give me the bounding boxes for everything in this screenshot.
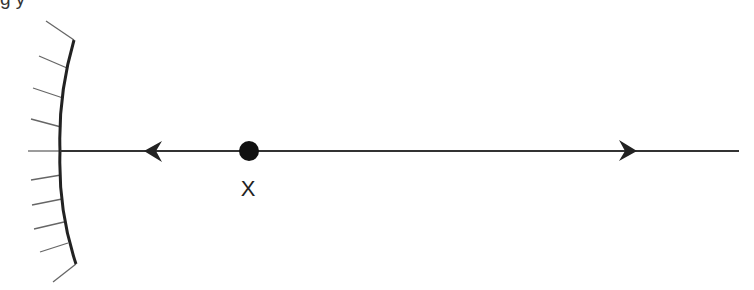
mirror-ray-diagram: X <box>0 0 754 290</box>
point-x-label: X <box>241 176 256 201</box>
point-x-dot <box>239 141 259 161</box>
